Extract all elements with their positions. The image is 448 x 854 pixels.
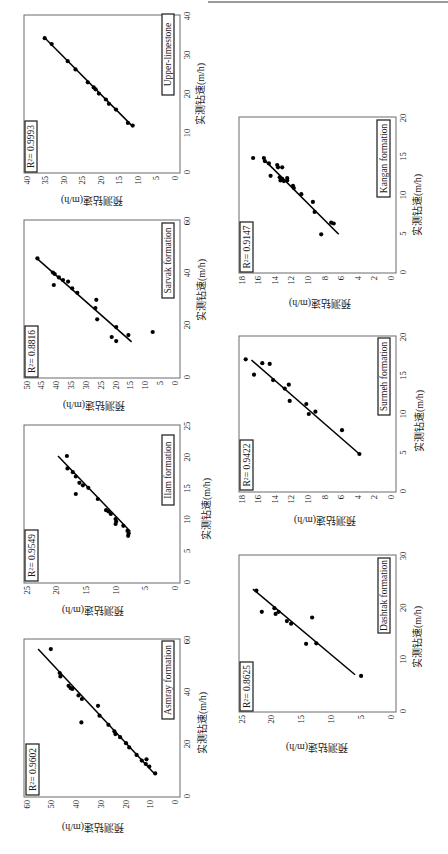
r2-label: R²= 0.9993 [26,125,36,168]
plot-frame [24,425,180,583]
data-point [283,387,287,391]
chart-dashtak: 01020300510152025R²= 0.8625Dashtak forma… [237,552,424,754]
chart-upper-limestone: 0102030400510152025303540R²= 0.9993Upper… [22,12,207,207]
data-point [260,361,264,365]
x-tick-label: 40 [182,688,192,697]
x-tick-label: 20 [398,114,408,123]
chart-ilam: 05101520250510152025R²= 0.9549Ilam forma… [22,422,213,617]
x-tick-label: 60 [182,217,192,226]
data-point [285,619,289,623]
y-tick-label: 4 [353,275,363,280]
r2-annotation: R²= 0.9602 [26,744,39,795]
y-axis-title: 预测钻速(m/h) [294,514,356,527]
y-tick-label: 4 [353,494,363,499]
x-tick-label: 0 [182,375,192,379]
data-point [292,186,296,190]
y-tick-label: 0 [170,800,180,804]
data-point [269,174,273,178]
formation-annotation: Sarvak formation [162,223,174,298]
data-point [252,373,256,377]
plot-frame [24,220,180,378]
formation-label: Kangan formation [379,124,389,194]
r2-annotation: R²= 0.9147 [240,222,253,272]
r2-label: R²= 0.9549 [27,534,37,577]
data-point [57,275,61,279]
r2-annotation: R²= 0.9422 [240,440,253,490]
data-point [304,642,308,646]
y-tick-label: 8 [320,276,330,280]
x-axis-title: 实测钻速(m/h) [194,63,207,125]
x-tick-label: 5 [182,549,192,553]
y-tick-label: 10 [303,495,313,504]
x-tick-label: 10 [182,129,192,138]
x-tick-label: 15 [398,371,408,380]
data-point [285,178,289,182]
y-axis-title: 预测钻速(m/h) [62,821,124,834]
x-axis-title: 实测钻速(m/h) [195,259,208,321]
data-point [114,339,118,343]
x-tick-label: 0 [398,270,408,274]
data-point [35,256,39,260]
data-point [50,42,54,46]
data-point [313,210,317,214]
x-tick-label: 5 [398,231,408,235]
data-point [121,524,125,528]
data-point [66,59,70,63]
y-axis-title: 预测钻速(m/h) [286,741,348,754]
y-tick-label: 30 [59,176,69,185]
y-tick-label: 5 [151,176,161,180]
y-tick-label: 10 [326,715,336,724]
formation-label: Upper-limestone [163,23,173,87]
data-point [114,108,118,112]
data-point [110,335,114,339]
data-point [144,757,148,761]
data-point [357,452,361,456]
data-point [310,615,314,619]
x-tick-label: 20 [182,740,192,749]
figure-panel: 0102030400510152025303540R²= 0.9993Upper… [0,0,448,854]
y-tick-label: 45 [36,381,46,390]
data-point [251,156,255,160]
y-tick-label: 20 [121,800,131,809]
x-tick-label: 10 [398,655,408,664]
x-tick-label: 40 [182,269,192,278]
x-axis-title: 实测钻速(m/h) [413,390,426,452]
data-point [106,723,110,727]
y-tick-label: 6 [336,276,346,280]
y-tick-label: 6 [336,495,346,499]
x-tick-label: 0 [182,580,192,584]
y-tick-label: 25 [77,176,87,185]
data-point [97,714,101,718]
y-tick-label: 20 [111,381,121,390]
data-point [104,97,108,101]
data-point [263,159,267,163]
y-axis-title: 预测钻速(m/h) [61,194,123,207]
data-point [244,357,248,361]
y-tick-label: 25 [237,715,247,724]
data-point [124,741,128,745]
data-point [126,333,130,337]
x-tick-label: 10 [182,515,192,524]
y-tick-label: 15 [114,176,124,185]
data-point [66,280,70,284]
data-point [70,687,74,691]
data-point [114,325,118,329]
data-point [287,383,291,387]
y-tick-label: 15 [81,586,91,595]
x-tick-label: 0 [182,794,192,798]
plot-frame [24,15,180,173]
data-point [131,124,135,128]
data-point [118,735,122,739]
y-tick-label: 0 [170,586,180,590]
y-tick-label: 15 [296,715,306,724]
y-tick-label: 18 [237,276,247,285]
y-tick-label: 50 [46,800,56,809]
data-point [268,362,272,366]
y-tick-label: 10 [140,381,150,390]
data-point [359,674,363,678]
data-point [49,647,53,651]
y-tick-label: 2 [369,495,379,499]
y-tick-label: 16 [253,276,263,285]
data-point [73,67,77,71]
x-tick-label: 20 [398,603,408,612]
